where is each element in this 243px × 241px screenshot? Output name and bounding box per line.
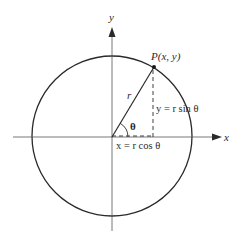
polar-coordinates-diagram: y x P(x, y) r θ y = r sin θ x = r cos θ: [0, 0, 243, 241]
x-equation-label: x = r cos θ: [116, 140, 160, 151]
point-p: [152, 65, 156, 69]
angle-label: θ: [130, 120, 136, 132]
y-axis-arrow-icon: [109, 27, 116, 37]
x-axis-label: x: [223, 131, 229, 143]
x-axis-arrow-icon: [212, 134, 222, 141]
y-equation-label: y = r sin θ: [156, 103, 198, 114]
radius-label: r: [127, 89, 132, 101]
angle-arc: [120, 123, 128, 137]
y-axis-label: y: [108, 11, 114, 23]
point-label: P(x, y): [150, 50, 181, 63]
